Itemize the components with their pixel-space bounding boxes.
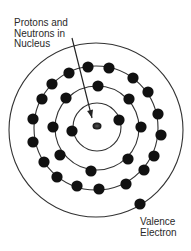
valence-label-line-1: Valence bbox=[140, 216, 177, 227]
electron bbox=[36, 93, 47, 104]
electron bbox=[63, 67, 74, 78]
electron bbox=[148, 150, 159, 161]
valence-label-line-2: Electron bbox=[140, 227, 177, 238]
electron bbox=[60, 92, 71, 103]
electron bbox=[142, 86, 153, 97]
nucleus-dot bbox=[93, 123, 102, 130]
electron bbox=[85, 165, 96, 176]
electron bbox=[122, 153, 133, 164]
electron bbox=[71, 180, 82, 191]
electron bbox=[120, 178, 131, 189]
electron bbox=[103, 62, 114, 73]
arrow-shaft bbox=[72, 38, 92, 118]
nucleus-label-line-1: Protons and bbox=[14, 18, 68, 29]
electron bbox=[135, 121, 146, 132]
arrow-head-icon bbox=[87, 110, 93, 118]
nucleus-label: Protons and Neutrons in Nucleus bbox=[14, 18, 68, 50]
electron bbox=[27, 136, 38, 147]
electron bbox=[92, 80, 103, 91]
electron bbox=[51, 171, 62, 182]
electron bbox=[155, 129, 166, 140]
electron bbox=[66, 125, 77, 136]
electron bbox=[93, 183, 104, 194]
electron bbox=[54, 149, 65, 160]
electron bbox=[82, 61, 93, 72]
electron bbox=[113, 114, 124, 125]
nucleus-pointer-arrow bbox=[72, 38, 93, 118]
electron bbox=[46, 78, 57, 89]
valence-electron bbox=[134, 198, 145, 209]
electron bbox=[123, 93, 134, 104]
electron bbox=[138, 164, 149, 175]
electron bbox=[127, 72, 138, 83]
valence-label: Valence Electron bbox=[140, 216, 177, 238]
electron bbox=[27, 113, 38, 124]
electron bbox=[38, 156, 49, 167]
electron bbox=[47, 121, 58, 132]
nucleus bbox=[93, 123, 102, 130]
nucleus-label-line-3: Nucleus bbox=[14, 39, 68, 50]
electron bbox=[152, 108, 163, 119]
valence-electron-dot bbox=[134, 198, 145, 209]
